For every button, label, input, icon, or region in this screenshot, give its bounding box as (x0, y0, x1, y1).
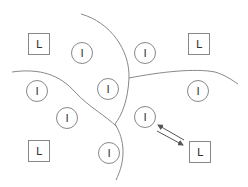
diagram-canvas: LLLL IIIIIIII (0, 0, 248, 187)
instance-node: I (99, 143, 120, 164)
instance-node: I (57, 108, 78, 129)
instance-label: I (143, 111, 146, 124)
arrow (158, 125, 184, 140)
instance-label: I (80, 47, 83, 60)
instance-node: I (135, 43, 156, 64)
landmark-node: L (189, 34, 210, 55)
instance-node: I (135, 107, 156, 128)
instance-nodes: IIIIIIII (27, 43, 209, 164)
instance-node: I (188, 81, 209, 102)
landmark-label: L (36, 38, 43, 51)
instance-label: I (196, 85, 199, 98)
landmark-label: L (36, 145, 43, 158)
instance-node: I (72, 43, 93, 64)
landmark-node: L (29, 141, 50, 162)
boundary-curve (129, 70, 238, 84)
landmark-node: L (29, 34, 50, 55)
landmark-label: L (197, 146, 204, 159)
link-arrows (157, 125, 184, 145)
landmark-node: L (190, 142, 211, 163)
instance-node: I (27, 81, 48, 102)
instance-label: I (143, 47, 146, 60)
instance-label: I (107, 147, 110, 160)
instance-label: I (35, 85, 38, 98)
arrow (157, 131, 183, 145)
instance-node: I (98, 79, 119, 100)
landmark-label: L (196, 38, 203, 51)
landmark-nodes: LLLL (29, 34, 211, 163)
instance-label: I (106, 83, 109, 96)
instance-label: I (65, 112, 68, 125)
